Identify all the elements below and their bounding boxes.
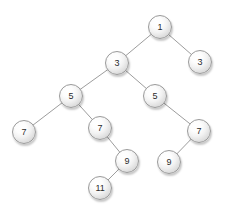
tree-node[interactable]: 7 bbox=[187, 119, 211, 143]
tree-node[interactable]: 7 bbox=[12, 120, 36, 144]
tree-node-label: 7 bbox=[98, 124, 103, 133]
tree-node[interactable]: 9 bbox=[115, 149, 139, 173]
tree-node-label: 7 bbox=[197, 127, 202, 136]
tree-node[interactable]: 5 bbox=[143, 84, 167, 108]
tree-node-label: 3 bbox=[115, 59, 120, 68]
tree-node-label: 3 bbox=[198, 58, 203, 67]
tree-node-label: 9 bbox=[167, 158, 172, 167]
tree-node[interactable]: 9 bbox=[157, 150, 181, 174]
tree-node-label: 5 bbox=[153, 92, 158, 101]
tree-node-label: 7 bbox=[22, 128, 27, 137]
tree-node[interactable]: 7 bbox=[88, 116, 112, 140]
tree-node-label: 11 bbox=[96, 184, 105, 193]
tree-node-label: 1 bbox=[158, 23, 163, 32]
tree-node[interactable]: 11 bbox=[88, 176, 112, 200]
tree-node[interactable]: 1 bbox=[148, 15, 172, 39]
tree-node[interactable]: 3 bbox=[105, 51, 129, 75]
tree-node[interactable]: 5 bbox=[59, 84, 83, 108]
tree-node-label: 5 bbox=[69, 92, 74, 101]
tree-node-layer: 133557779911 bbox=[0, 0, 230, 217]
tree-node[interactable]: 3 bbox=[188, 50, 212, 74]
binary-tree-diagram: 133557779911 bbox=[0, 0, 230, 217]
tree-node-label: 9 bbox=[125, 157, 130, 166]
